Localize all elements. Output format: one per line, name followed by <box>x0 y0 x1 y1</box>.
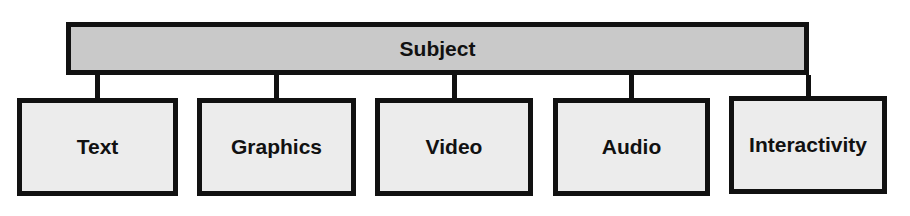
node-graphics: Graphics <box>197 98 356 196</box>
node-video-label: Video <box>426 135 483 159</box>
connector-text <box>95 75 100 100</box>
node-interactivity-label: Interactivity <box>749 133 867 157</box>
connector-video <box>452 75 457 100</box>
subject-label: Subject <box>400 37 476 61</box>
node-video: Video <box>375 98 533 196</box>
node-text: Text <box>17 98 178 196</box>
node-graphics-label: Graphics <box>231 135 322 159</box>
node-interactivity: Interactivity <box>729 96 887 194</box>
subject-node: Subject <box>66 22 809 75</box>
node-audio: Audio <box>553 98 710 196</box>
node-text-label: Text <box>77 135 119 159</box>
connector-graphics <box>274 75 279 100</box>
connector-audio <box>629 75 634 100</box>
node-audio-label: Audio <box>602 135 661 159</box>
